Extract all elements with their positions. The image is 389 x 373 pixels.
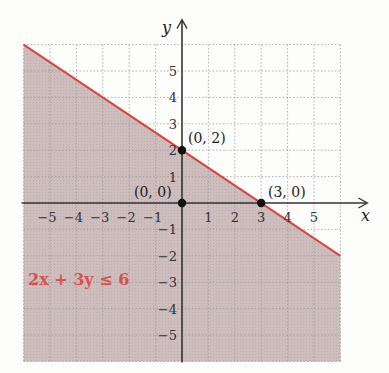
y-tick-label: −4 (158, 302, 177, 317)
x-tick-label: −4 (64, 210, 83, 225)
x-tick-label: 2 (231, 210, 239, 225)
x-tick-label: −3 (90, 210, 109, 225)
inequality-label: 2x + 3y ≤ 6 (28, 270, 129, 289)
y-tick-label: 1 (169, 170, 177, 185)
x-tick-label: 4 (283, 210, 291, 225)
y-tick-label: 3 (169, 117, 177, 132)
data-point (178, 146, 186, 154)
y-tick-label: −5 (158, 328, 177, 343)
point-label-3-0: (3, 0) (268, 184, 306, 200)
y-tick-label: −2 (158, 249, 177, 264)
y-tick-label: −1 (158, 222, 177, 237)
x-axis-label: x (361, 206, 370, 225)
y-tick-label: −3 (158, 275, 177, 290)
point-label-0-0: (0, 0) (134, 184, 172, 200)
y-tick-label: 5 (169, 64, 177, 79)
x-tick-label: 1 (204, 210, 212, 225)
inequality-graph: −5−4−3−2−11234554321−1−2−3−4−5 x y 2x + … (0, 0, 389, 373)
y-tick-label: 4 (169, 90, 177, 105)
x-tick-label: 3 (257, 210, 265, 225)
data-point (257, 199, 265, 207)
point-label-0-2: (0, 2) (188, 130, 226, 146)
x-tick-label: −5 (37, 210, 56, 225)
y-axis-label: y (161, 18, 172, 37)
data-point (178, 199, 186, 207)
y-tick-label: 2 (169, 143, 177, 158)
x-tick-label: −2 (117, 210, 136, 225)
x-tick-label: 5 (310, 210, 318, 225)
